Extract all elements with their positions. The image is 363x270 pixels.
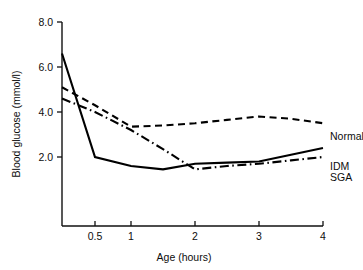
x-axis-title: Age (hours): [157, 251, 212, 263]
chart-figure: 8.0 6.0 4.0 2.0 0.5 1 2 3 4 Age (hours) …: [0, 0, 363, 270]
x-tick-label-4: 4: [320, 230, 326, 242]
x-tick-label-3: 3: [256, 230, 262, 242]
series-line-idm: [62, 54, 323, 170]
y-tick-label-2: 2.0: [38, 151, 53, 163]
line-chart: 8.0 6.0 4.0 2.0 0.5 1 2 3 4 Age (hours) …: [0, 0, 363, 270]
series-line-normal: [62, 87, 323, 126]
x-tick-label-1: 1: [128, 230, 134, 242]
y-tick-label-4: 4.0: [38, 106, 53, 118]
series-label-sga: SGA: [330, 171, 352, 183]
y-tick-label-6: 6.0: [38, 61, 53, 73]
y-axis-title: Blood glucose (mmol/l): [10, 71, 22, 178]
x-tick-label-2: 2: [192, 230, 198, 242]
series-label-normal: Normal: [330, 130, 363, 142]
x-tick-label-0-5: 0.5: [88, 230, 103, 242]
y-tick-label-8: 8.0: [38, 16, 53, 28]
